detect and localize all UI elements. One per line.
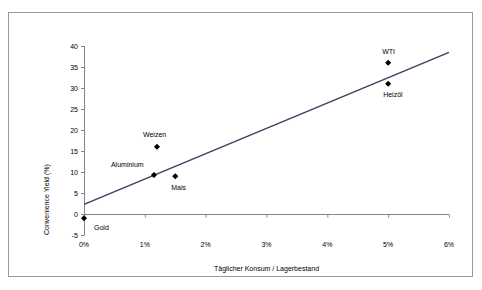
x-tick-label: 5% <box>383 241 393 248</box>
y-tick-label: 0 <box>56 211 78 218</box>
data-point-label: Aluminium <box>111 161 144 168</box>
y-tick-label: -5 <box>56 232 78 239</box>
y-tick-label: 25 <box>56 106 78 113</box>
x-tick-label: 6% <box>444 241 454 248</box>
x-tick-label: 0% <box>79 241 89 248</box>
data-point-label: Gold <box>94 224 109 231</box>
y-tick-label: 40 <box>56 43 78 50</box>
y-tick-label: 10 <box>56 169 78 176</box>
data-point-marker <box>82 216 86 220</box>
data-point-marker <box>173 174 177 178</box>
x-tick-label: 4% <box>322 241 332 248</box>
x-tick-label: 3% <box>261 241 271 248</box>
trendline <box>84 52 449 204</box>
data-point-label: Heizöl <box>383 91 402 98</box>
x-tick-label: 2% <box>201 241 211 248</box>
y-tick-label: 35 <box>56 64 78 71</box>
y-tick-label: 30 <box>56 85 78 92</box>
screenshot-root: -50510152025303540 0%1%2%3%4%5%6% GoldAl… <box>0 0 482 290</box>
x-axis-title: Täglicher Konsum / Lagerbestand <box>84 265 449 272</box>
data-point-marker <box>155 145 159 149</box>
data-point-label: Weizen <box>143 131 166 138</box>
plot-svg <box>84 46 449 235</box>
data-point-marker <box>386 61 390 65</box>
trend-line <box>84 52 449 204</box>
data-point-label: WTI <box>382 48 395 55</box>
data-point-marker <box>386 82 390 86</box>
data-point-label: Mais <box>171 184 186 191</box>
x-tick-label: 1% <box>140 241 150 248</box>
plot-area: -50510152025303540 0%1%2%3%4%5%6% GoldAl… <box>84 46 449 235</box>
y-axis-title: Convenience Yield (%) <box>43 164 50 235</box>
y-tick-label: 5 <box>56 190 78 197</box>
y-tick-label: 15 <box>56 148 78 155</box>
y-tick-label: 20 <box>56 127 78 134</box>
chart-frame: -50510152025303540 0%1%2%3%4%5%6% GoldAl… <box>8 12 473 277</box>
